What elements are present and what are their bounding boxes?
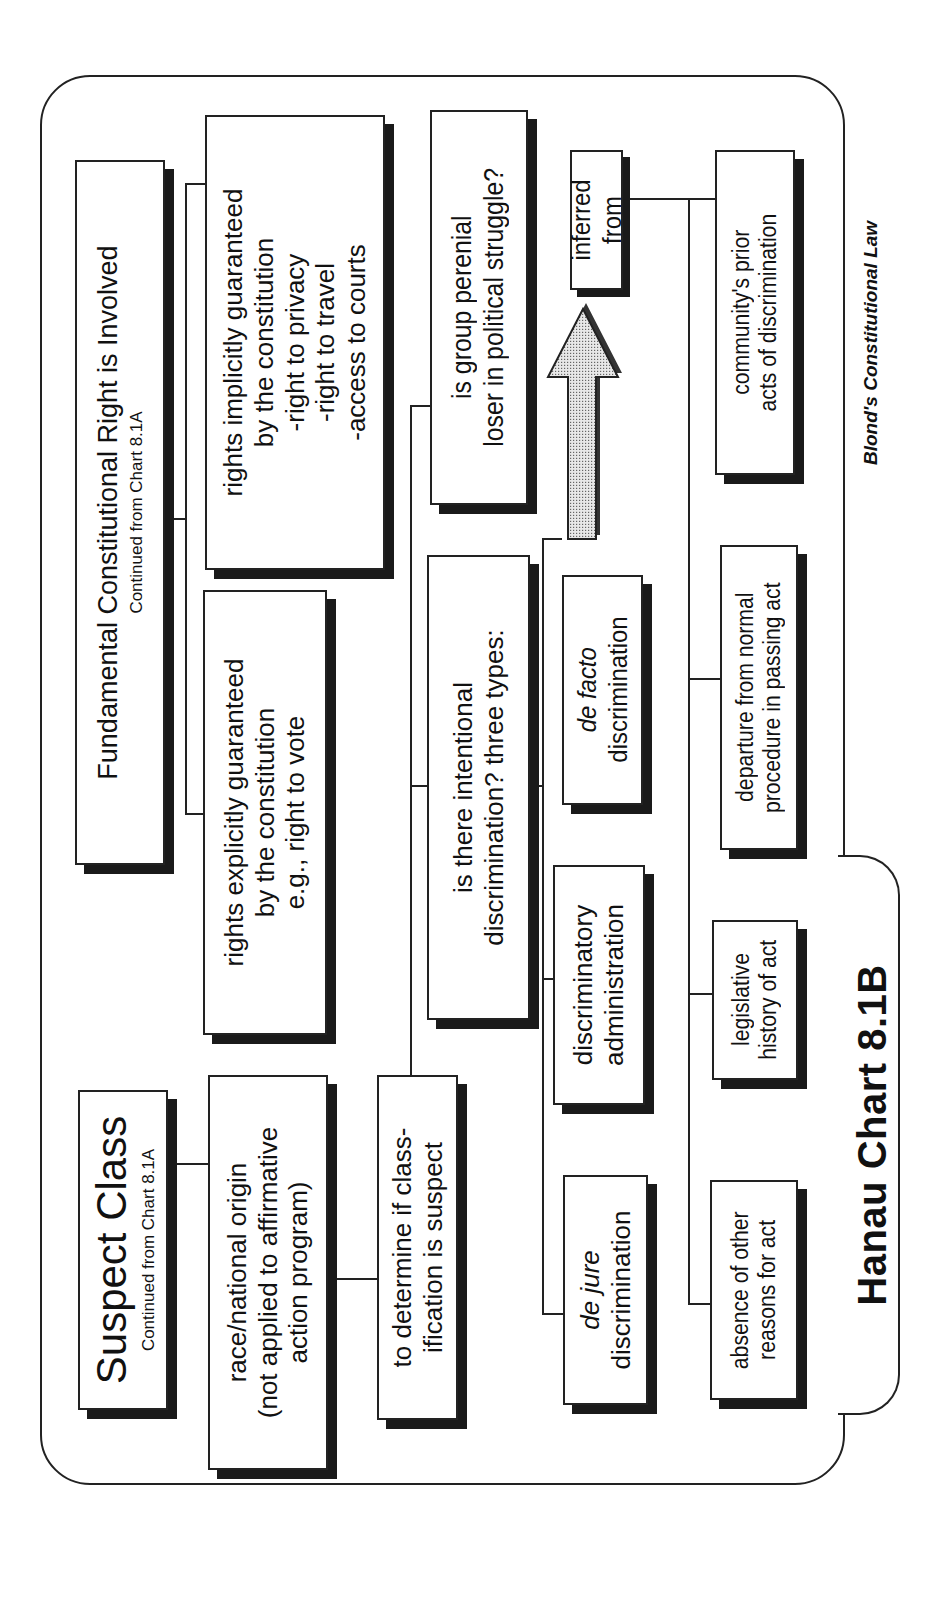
text-line: action program) [283, 1181, 314, 1363]
italic-term: de facto [572, 647, 602, 732]
text-line: ification is suspect [418, 1142, 449, 1353]
text-line: is there intentional [448, 682, 479, 893]
perennial-loser-box: is group perenial loser in political str… [430, 110, 528, 505]
diagram-canvas: Hanau Chart 8.1B Blond's Constitutional … [0, 0, 943, 1605]
de-jure-box: de jure discrimination [563, 1175, 648, 1405]
connector [165, 518, 185, 520]
text-line: procedure in passing act [759, 582, 786, 813]
text-line: loser in political struggle? [479, 168, 511, 447]
text-line: rights explicitly guaranteed [219, 659, 250, 967]
text-line: discrimination [603, 617, 634, 763]
fundamental-right-title: Fundamental Constitutional Right is Invo… [93, 245, 125, 779]
text-line: acts of discrimination [755, 214, 782, 412]
connector [688, 1303, 710, 1305]
intentional-discrimination-box: is there intentional discrimination? thr… [427, 555, 530, 1020]
inferred-from-box: inferred from [570, 150, 623, 290]
connector [542, 538, 544, 1315]
connector [688, 678, 720, 680]
de-facto-box: de facto discrimination [562, 575, 643, 805]
text-line: to determine if class- [387, 1128, 418, 1368]
text-line: rights implicitly guaranteed [218, 189, 249, 497]
text-line: (not applied to affirmative [253, 1127, 284, 1418]
connector [410, 785, 427, 787]
text-line: discrimination [606, 1211, 637, 1370]
prior-discrimination-box: community's prior acts of discrimination [715, 150, 795, 475]
text-line: legislative [728, 954, 755, 1047]
connector [542, 978, 553, 980]
connector [623, 198, 688, 200]
text-line: community's prior [728, 230, 755, 395]
text-line: administration [599, 904, 630, 1066]
italic-term: de jure [575, 1250, 605, 1330]
connector [185, 813, 203, 815]
suspect-class-box: Suspect Class Continued from Chart 8.1A [78, 1090, 168, 1410]
determine-suspect-box: to determine if class- ification is susp… [377, 1075, 458, 1420]
up-arrow-icon [546, 293, 624, 543]
connector [410, 405, 412, 1075]
race-origin-box: race/national origin (not applied to aff… [208, 1075, 328, 1470]
fundamental-right-subtitle: Continued from Chart 8.1A [127, 411, 147, 613]
text-line: by the constitution [250, 708, 281, 918]
text-line: by the constitution [249, 238, 280, 448]
suspect-class-title: Suspect Class [87, 1116, 137, 1384]
fundamental-right-box: Fundamental Constitutional Right is Invo… [75, 160, 165, 865]
legislative-history-box: legislative history of act [712, 920, 798, 1080]
text-line: absence of other [727, 1211, 754, 1369]
text-line: -right to privacy [280, 254, 311, 432]
text-line: -access to courts [341, 244, 372, 441]
connector [168, 1163, 208, 1165]
connector [688, 199, 690, 1305]
text-line: inferred from [566, 157, 627, 282]
connector [185, 183, 205, 185]
implicit-rights-box: rights implicitly guaranteed by the cons… [205, 115, 385, 570]
credit-text: Blond's Constitutional Law [860, 221, 882, 465]
text-line: is group perenial [447, 216, 479, 400]
chart-title: Hanau Chart 8.1B [850, 855, 895, 1415]
discriminatory-administration-box: discriminatory administration [553, 865, 645, 1105]
text-line: history of act [755, 940, 782, 1060]
text-line: departure from normal [732, 593, 759, 802]
text-line: e.g., right to vote [280, 716, 311, 910]
departure-procedure-box: departure from normal procedure in passi… [720, 545, 798, 850]
suspect-class-subtitle: Continued from Chart 8.1A [139, 1149, 159, 1351]
connector [530, 785, 542, 787]
connector [688, 198, 715, 200]
text-line: -right to travel [310, 263, 341, 422]
connector [185, 185, 187, 815]
absence-of-reasons-box: absence of other reasons for act [710, 1180, 798, 1400]
connector [328, 1278, 377, 1280]
connector [688, 993, 712, 995]
connector [410, 405, 430, 407]
text-line: reasons for act [754, 1220, 781, 1360]
explicit-rights-box: rights explicitly guaranteed by the cons… [203, 590, 327, 1035]
text-line: discriminatory [568, 905, 599, 1065]
text-line: race/national origin [222, 1163, 253, 1383]
text-line: discrimination? three types: [479, 629, 510, 945]
